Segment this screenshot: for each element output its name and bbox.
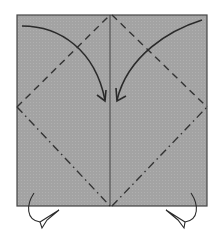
origami-diagram bbox=[0, 0, 219, 248]
paper-square bbox=[17, 15, 207, 206]
